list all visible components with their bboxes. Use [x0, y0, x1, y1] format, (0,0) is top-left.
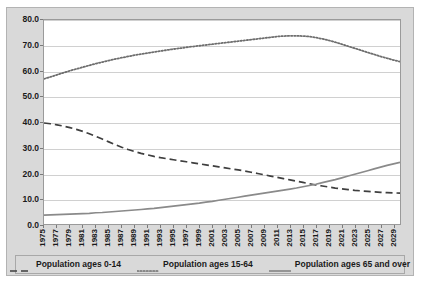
- x-axis-tick-mark: [186, 225, 187, 228]
- x-axis-tick-label: 2007: [247, 229, 255, 247]
- x-axis-tick-label: 2013: [286, 229, 294, 247]
- x-axis-tick-mark: [199, 225, 200, 228]
- y-axis: 0.010.020.030.040.050.060.070.080.0: [7, 8, 43, 236]
- y-axis-tick-label: 60.0: [22, 66, 39, 75]
- x-axis-tick-label: 1975: [39, 229, 47, 247]
- y-axis-tick-label: 40.0: [22, 118, 39, 127]
- x-axis-tick-label: 2009: [260, 229, 268, 247]
- x-axis-tick-mark: [147, 225, 148, 228]
- x-axis-tick-mark: [277, 225, 278, 228]
- x-axis-tick-label: 1983: [91, 229, 99, 247]
- series-lines: [44, 20, 400, 224]
- x-axis-tick-label: 2027: [377, 229, 385, 247]
- x-axis-tick-label: 1997: [182, 229, 190, 247]
- plot-area: [43, 19, 401, 225]
- x-axis-tick-label: 1999: [195, 229, 203, 247]
- legend-label: Population ages 0-14: [36, 260, 121, 269]
- x-axis-tick-mark: [355, 225, 356, 228]
- x-axis-tick-label: 2023: [351, 229, 359, 247]
- x-axis-tick-label: 1995: [169, 229, 177, 247]
- x-axis-tick-mark: [238, 225, 239, 228]
- legend-swatch: [269, 261, 291, 269]
- x-axis-tick-mark: [173, 225, 174, 228]
- x-axis-tick-label: 1977: [52, 229, 60, 247]
- x-axis-tick-mark: [316, 225, 317, 228]
- legend-label: Population ages 15-64: [163, 260, 253, 269]
- x-axis-tick-mark: [290, 225, 291, 228]
- series-line: [44, 123, 400, 193]
- y-axis-tick-label: 80.0: [22, 15, 39, 24]
- x-axis-tick-mark: [69, 225, 70, 228]
- x-axis-tick-mark: [381, 225, 382, 228]
- legend-swatch: [137, 261, 159, 269]
- x-axis-tick-mark: [95, 225, 96, 228]
- x-axis-tick-label: 1993: [156, 229, 164, 247]
- y-axis-tick-label: 70.0: [22, 41, 39, 50]
- x-axis-tick-mark: [329, 225, 330, 228]
- x-axis-tick-label: 2025: [364, 229, 372, 247]
- legend-item[interactable]: Population ages 15-64: [137, 260, 253, 269]
- x-axis-tick-mark: [251, 225, 252, 228]
- chart-frame: 0.010.020.030.040.050.060.070.080.0 1975…: [6, 7, 414, 276]
- x-axis-tick-label: 1991: [143, 229, 151, 247]
- x-axis-tick-label: 1989: [130, 229, 138, 247]
- legend-label: Population ages 65 and over: [295, 260, 410, 269]
- x-axis-tick-mark: [121, 225, 122, 228]
- y-axis-tick-label: 50.0: [22, 92, 39, 101]
- x-axis-tick-label: 2015: [299, 229, 307, 247]
- x-axis-tick-mark: [342, 225, 343, 228]
- y-axis-tick-label: 20.0: [22, 169, 39, 178]
- x-axis-tick-mark: [394, 225, 395, 228]
- y-axis-tick-label: 30.0: [22, 144, 39, 153]
- x-axis-tick-mark: [82, 225, 83, 228]
- x-axis-tick-mark: [160, 225, 161, 228]
- chart-legend: Population ages 0-14Population ages 15-6…: [15, 255, 405, 274]
- x-axis-tick-label: 2001: [208, 229, 216, 247]
- x-axis-tick-mark: [108, 225, 109, 228]
- x-axis-tick-label: 2019: [325, 229, 333, 247]
- x-axis-tick-mark: [43, 225, 44, 228]
- x-axis-tick-label: 1985: [104, 229, 112, 247]
- x-axis-tick-label: 2029: [390, 229, 398, 247]
- x-axis-tick-mark: [212, 225, 213, 228]
- legend-swatch: [10, 261, 32, 269]
- y-axis-tick-label: 10.0: [22, 195, 39, 204]
- x-axis-tick-label: 2005: [234, 229, 242, 247]
- x-axis-tick-label: 2011: [273, 229, 281, 246]
- x-axis-tick-label: 1981: [78, 229, 86, 247]
- x-axis-tick-mark: [368, 225, 369, 228]
- x-axis-tick-label: 1979: [65, 229, 73, 247]
- x-axis-tick-mark: [264, 225, 265, 228]
- legend-item[interactable]: Population ages 65 and over: [269, 260, 410, 269]
- legend-item[interactable]: Population ages 0-14: [10, 260, 121, 269]
- x-axis-tick-label: 2021: [338, 229, 346, 247]
- x-axis-tick-mark: [225, 225, 226, 228]
- x-axis-tick-mark: [56, 225, 57, 228]
- x-axis-tick-mark: [303, 225, 304, 228]
- x-axis-tick-label: 2003: [221, 229, 229, 247]
- x-axis-tick-mark: [134, 225, 135, 228]
- x-axis-tick-label: 1987: [117, 229, 125, 247]
- x-axis-tick-label: 2017: [312, 229, 320, 247]
- series-line: [44, 36, 400, 79]
